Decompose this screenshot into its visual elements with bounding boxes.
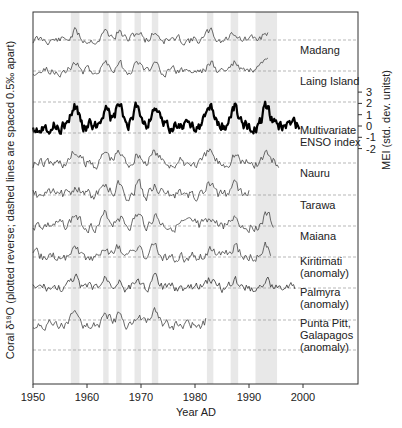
series-label: Laing Island xyxy=(300,75,359,87)
el-nino-band xyxy=(103,12,108,384)
x-tick-label: 1950 xyxy=(21,391,45,403)
x-tick-label: 1990 xyxy=(237,391,261,403)
series-label: Nauru xyxy=(300,167,330,179)
x-tick-label: 2000 xyxy=(291,391,315,403)
el-nino-band xyxy=(135,12,141,384)
series-label: Maiana xyxy=(300,230,337,242)
el-nino-band xyxy=(255,12,277,384)
series-label: Tarawa xyxy=(300,199,336,211)
mei-tick-label: -2 xyxy=(366,143,376,155)
series-label: (anomaly) xyxy=(300,341,349,353)
series-label: Punta Pitt, xyxy=(300,317,351,329)
coral-enso-chart: MadangLaing IslandMultivariateENSO index… xyxy=(0,0,402,428)
el-nino-band xyxy=(71,12,80,384)
series-label: Palmyra xyxy=(300,286,341,298)
mei-tick-label: 2 xyxy=(366,97,372,109)
mei-tick-label: -1 xyxy=(366,131,376,143)
series-label: Kiritimati xyxy=(300,255,342,267)
series-label: Galapagos xyxy=(300,329,354,341)
el-nino-band xyxy=(152,12,158,384)
series-label: Multivariate xyxy=(300,124,356,136)
x-tick-label: 1960 xyxy=(75,391,99,403)
y-axis-label: Coral δ¹⁸O (plotted reverse; dashed line… xyxy=(4,41,16,359)
mei-axis: 3210-1-2 xyxy=(358,86,376,155)
el-nino-band xyxy=(116,12,121,384)
mei-tick-label: 0 xyxy=(366,120,372,132)
x-axis-label: Year AD xyxy=(176,406,216,418)
mei-tick-label: 3 xyxy=(366,86,372,98)
series-label: (anomaly) xyxy=(300,298,349,310)
series-label: ENSO index xyxy=(300,136,361,148)
mei-axis-label: MEI (std. dev. unitst) xyxy=(380,70,392,170)
series-labels: MadangLaing IslandMultivariateENSO index… xyxy=(300,44,361,353)
series-label: Madang xyxy=(300,44,340,56)
x-tick-label: 1970 xyxy=(129,391,153,403)
mei-tick-label: 1 xyxy=(366,109,372,121)
x-axis: 195019601970198019902000 xyxy=(21,384,315,403)
x-tick-label: 1980 xyxy=(183,391,207,403)
el-nino-band xyxy=(207,12,213,384)
el-nino-band xyxy=(231,12,239,384)
series-label: (anomaly) xyxy=(300,267,349,279)
